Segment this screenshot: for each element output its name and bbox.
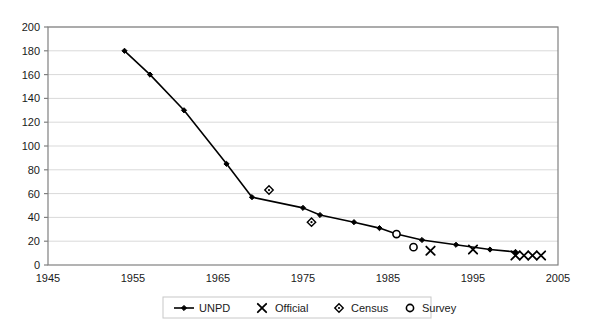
chart-container: 020406080100120140160180200 194519551965… — [0, 0, 593, 331]
x-tick-label-1985: 1985 — [376, 272, 400, 284]
x-tick-label-1955: 1955 — [121, 272, 145, 284]
x-tick-label-1965: 1965 — [206, 272, 230, 284]
y-tick-label-40: 40 — [28, 211, 40, 223]
y-tick-label-20: 20 — [28, 235, 40, 247]
x-tick-label-1995: 1995 — [461, 272, 485, 284]
x-tick-label-2005: 2005 — [546, 272, 570, 284]
y-tick-label-200: 200 — [22, 21, 40, 33]
legend-label-official: Official — [275, 302, 308, 314]
x-tick-label-1975: 1975 — [291, 272, 315, 284]
y-tick-label-60: 60 — [28, 188, 40, 200]
y-tick-label-140: 140 — [22, 92, 40, 104]
data-point-survey-0 — [393, 230, 400, 237]
chart-legend: UNPDOfficialCensusSurvey — [163, 297, 457, 318]
data-point-census-1-center — [310, 221, 312, 223]
legend-label-census: Census — [351, 302, 389, 314]
y-tick-label-100: 100 — [22, 140, 40, 152]
data-point-survey-1 — [410, 244, 417, 251]
y-tick-label-180: 180 — [22, 45, 40, 57]
y-tick-label-0: 0 — [34, 259, 40, 271]
legend-label-survey: Survey — [422, 302, 457, 314]
y-tick-label-80: 80 — [28, 164, 40, 176]
data-point-census-0-center — [268, 189, 270, 191]
legend-marker-survey — [406, 304, 413, 311]
y-tick-label-160: 160 — [22, 69, 40, 81]
legend-marker-census-center — [338, 307, 340, 309]
line-chart: 020406080100120140160180200 194519551965… — [0, 0, 593, 331]
y-tick-label-120: 120 — [22, 116, 40, 128]
x-tick-label-1945: 1945 — [36, 272, 60, 284]
legend-label-unpd: UNPD — [199, 302, 230, 314]
